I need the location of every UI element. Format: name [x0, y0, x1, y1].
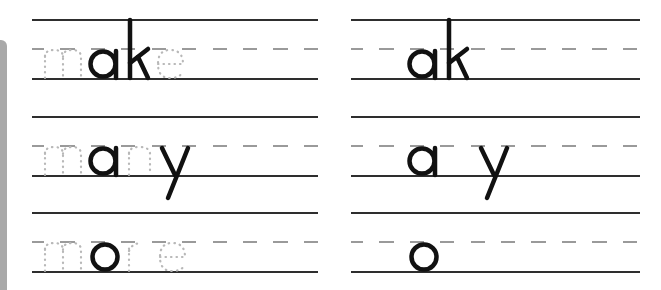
- traced-letter-e: [156, 49, 186, 79]
- solid-letter-o: [92, 242, 122, 272]
- right-practice-column: _ak_ _a_y _o__: [351, 0, 640, 290]
- page-edge-tab: [0, 40, 7, 290]
- solid-letter-k: [128, 19, 153, 79]
- solid-letter-y: [160, 146, 190, 201]
- dashed-midline: [351, 48, 640, 50]
- traced-letter-m: [44, 49, 84, 79]
- practice-row-ay: _a_y: [351, 116, 640, 176]
- practice-row-more: more: [32, 212, 318, 272]
- traced-letter-m: [44, 146, 84, 176]
- solid-letter-a: [90, 146, 120, 176]
- practice-row-ak: _ak_: [351, 19, 640, 79]
- solid-letter-y: [479, 146, 509, 201]
- solid-letter-k: [447, 19, 472, 79]
- top-ruled-line: [351, 19, 640, 21]
- solid-letter-o: [411, 242, 441, 272]
- top-ruled-line: [351, 212, 640, 214]
- traced-letter-n: [128, 146, 153, 176]
- traced-letter-m: [44, 242, 84, 272]
- top-ruled-line: [32, 212, 318, 214]
- traced-letter-e: [158, 242, 188, 272]
- solid-letter-a: [409, 49, 439, 79]
- solid-letter-a: [90, 49, 120, 79]
- top-ruled-line: [351, 116, 640, 118]
- baseline: [351, 78, 640, 80]
- practice-row-many: many: [32, 116, 318, 176]
- traced-letter-r: [128, 242, 148, 272]
- top-ruled-line: [32, 19, 318, 21]
- baseline: [351, 271, 640, 273]
- dashed-midline: [351, 241, 640, 243]
- top-ruled-line: [32, 116, 318, 118]
- left-practice-column: make many: [32, 0, 318, 290]
- practice-row-make: make: [32, 19, 318, 79]
- solid-letter-a: [409, 146, 439, 176]
- practice-row-o: _o__: [351, 212, 640, 272]
